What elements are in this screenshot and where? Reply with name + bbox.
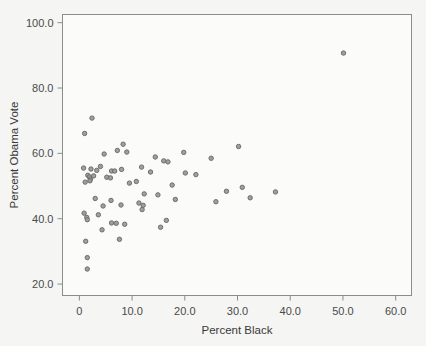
- data-point: [170, 183, 174, 187]
- scatter-chart: 010.020.030.040.050.060.0 20.040.060.080…: [0, 0, 426, 346]
- data-point: [153, 155, 157, 159]
- x-tick-label: 20.0: [174, 305, 195, 317]
- y-tick-label: 80.0: [32, 82, 53, 94]
- data-point: [101, 204, 105, 208]
- data-point: [96, 213, 100, 217]
- data-point: [93, 196, 97, 200]
- data-point: [156, 193, 160, 197]
- data-point: [102, 152, 106, 156]
- data-point: [273, 190, 277, 194]
- data-point: [81, 166, 85, 170]
- data-point: [162, 159, 166, 163]
- data-point: [194, 172, 198, 176]
- x-tick-label: 50.0: [332, 305, 353, 317]
- x-tick-label: 60.0: [385, 305, 406, 317]
- data-point: [108, 176, 112, 180]
- y-tick-label: 20.0: [32, 278, 53, 290]
- data-point: [166, 160, 170, 164]
- data-point: [123, 222, 127, 226]
- data-point: [236, 144, 240, 148]
- data-point: [137, 201, 141, 205]
- y-tick-label: 60.0: [32, 147, 53, 159]
- data-point: [85, 255, 89, 259]
- plot-frame: [63, 15, 412, 296]
- plot-svg: 010.020.030.040.050.060.0 20.040.060.080…: [0, 0, 426, 346]
- data-point: [95, 168, 99, 172]
- data-point: [109, 221, 113, 225]
- data-point: [134, 179, 138, 183]
- data-point: [183, 171, 187, 175]
- data-point: [173, 197, 177, 201]
- data-point: [140, 207, 144, 211]
- y-tick-label: 100.0: [26, 17, 54, 29]
- data-point: [139, 165, 143, 169]
- data-point: [89, 167, 93, 171]
- data-point: [84, 239, 88, 243]
- data-point: [341, 51, 345, 55]
- data-point: [182, 150, 186, 154]
- data-point: [141, 203, 145, 207]
- data-point: [82, 211, 86, 215]
- data-point: [119, 167, 123, 171]
- data-point: [158, 225, 162, 229]
- data-point: [121, 142, 125, 146]
- data-point: [115, 148, 119, 152]
- data-point: [85, 218, 89, 222]
- data-point: [117, 237, 121, 241]
- data-point: [125, 150, 129, 154]
- y-tick-label: 40.0: [32, 213, 53, 225]
- data-point: [85, 267, 89, 271]
- data-point: [248, 196, 252, 200]
- data-point: [98, 164, 102, 168]
- data-point: [148, 170, 152, 174]
- x-tick-label: 0: [76, 305, 82, 317]
- data-point: [109, 198, 113, 202]
- data-point: [100, 228, 104, 232]
- data-point: [240, 185, 244, 189]
- data-point: [88, 179, 92, 183]
- y-axis-title: Percent Obama Vote: [8, 102, 20, 209]
- data-point: [164, 218, 168, 222]
- data-point: [83, 180, 87, 184]
- x-tick-label: 30.0: [227, 305, 248, 317]
- data-point: [209, 156, 213, 160]
- data-point: [142, 192, 146, 196]
- x-tick-label: 10.0: [121, 305, 142, 317]
- data-point: [90, 116, 94, 120]
- data-point: [214, 200, 218, 204]
- data-point: [119, 203, 123, 207]
- data-point: [224, 189, 228, 193]
- x-tick-label: 40.0: [280, 305, 301, 317]
- data-point: [127, 181, 131, 185]
- x-axis-title: Percent Black: [202, 324, 273, 336]
- data-point: [112, 169, 116, 173]
- data-point: [114, 221, 118, 225]
- data-point: [82, 131, 86, 135]
